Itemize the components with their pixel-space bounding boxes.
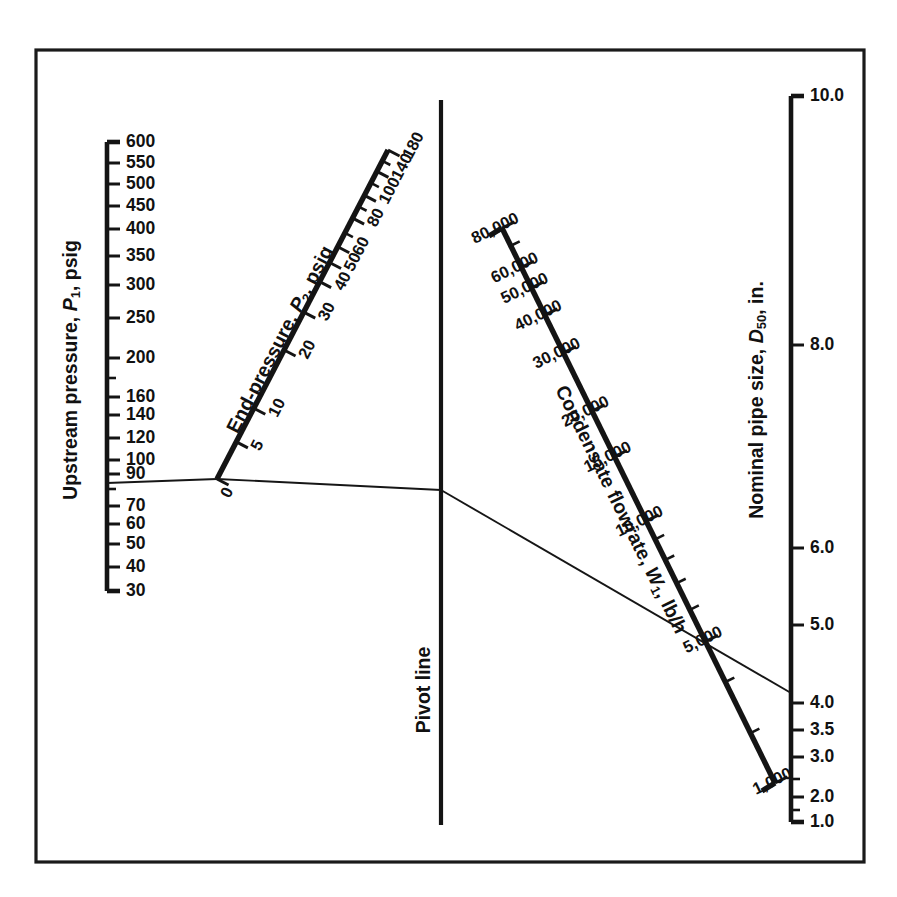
svg-text:Upstream pressure, P1, psig: Upstream pressure, P1, psig <box>59 240 83 500</box>
nominal-pipe-size-tick-label: 4.0 <box>810 692 835 712</box>
upstream-pressure-tick-label: 550 <box>126 152 155 172</box>
upstream-pressure-tick-label: 60 <box>126 513 146 533</box>
end-pressure-tick-label-group: 30 <box>314 299 338 324</box>
condensate-flowrate-axis-title: Condensate flowrate, W1, lb/h <box>549 382 692 638</box>
isopleth-p2-to-pivot <box>217 479 441 490</box>
upstream-pressure-tick-label: 50 <box>126 533 146 553</box>
nominal-pipe-size-tick-label: 8.0 <box>810 334 835 354</box>
end-pressure-ticks <box>217 150 400 485</box>
end-pressure-tick-label-group: 80 <box>363 205 387 230</box>
p1-title-tail: , psig <box>59 240 81 291</box>
upstream-pressure-tick-label: 120 <box>126 427 155 447</box>
p1-title-main: Upstream pressure, <box>59 311 81 500</box>
condensate-flowrate-tick-label-group: 1,000 <box>749 763 794 797</box>
condensate-flowrate-tick-label: 1,000 <box>749 763 794 797</box>
axis-upstream-pressure: 6005505004504003503002502001601401201009… <box>59 131 155 600</box>
d-title-sub: 50 <box>754 315 769 329</box>
upstream-pressure-tick-label: 70 <box>126 495 146 515</box>
upstream-pressure-tick-label: 250 <box>126 307 155 327</box>
axis-nominal-pipe-size: 10.08.06.05.04.03.53.02.01.0 Nominal pip… <box>745 85 844 831</box>
upstream-pressure-tick-labels: 6005505004504003503002502001601401201009… <box>126 131 155 600</box>
end-pressure-tick-label: 0 <box>216 484 236 500</box>
pivot-label-text: Pivot line <box>412 647 434 734</box>
p1-title-sub: 1 <box>68 291 83 298</box>
nominal-pipe-size-tick-label: 10.0 <box>810 85 844 105</box>
svg-text:Condensate flowrate, W1, lb/h: Condensate flowrate, W1, lb/h <box>549 382 692 638</box>
nominal-pipe-size-tick-label: 3.0 <box>810 746 835 766</box>
upstream-pressure-tick-label: 350 <box>126 245 155 265</box>
upstream-pressure-axis-title: Upstream pressure, P1, psig <box>59 240 83 500</box>
upstream-pressure-tick-label: 140 <box>126 404 155 424</box>
end-pressure-tick-label: 10 <box>264 395 288 420</box>
upstream-pressure-tick-label: 400 <box>126 218 155 238</box>
pivot-line-group: Pivot line <box>412 100 441 825</box>
nominal-pipe-size-tick-label: 1.0 <box>810 811 835 831</box>
upstream-pressure-tick-label: 300 <box>126 274 155 294</box>
end-pressure-tick-label: 80 <box>363 205 387 230</box>
svg-text:Nominal pipe size, D50, in.: Nominal pipe size, D50, in. <box>745 281 769 519</box>
upstream-pressure-tick-label: 500 <box>126 173 155 193</box>
end-pressure-tick-label: 5 <box>246 437 266 453</box>
p2-title-tail: , psig <box>294 242 337 297</box>
p2-title-main: End-pressure, <box>222 305 305 436</box>
end-pressure-tick-label-group: 20 <box>294 337 318 362</box>
isopleth-p1-to-p2 <box>107 479 217 483</box>
end-pressure-tick-label: 30 <box>314 299 338 324</box>
upstream-pressure-tick-label: 30 <box>126 580 146 600</box>
nominal-pipe-size-axis-title: Nominal pipe size, D50, in. <box>745 281 769 519</box>
end-pressure-tick-label-group: 10 <box>264 395 288 420</box>
pivot-line-label: Pivot line <box>412 647 434 734</box>
d-title-main: Nominal pipe size, <box>745 343 767 519</box>
condensate-flowrate-tick-label-group: 80,000 <box>468 208 521 246</box>
w-title-tail: , lb/h <box>652 586 692 637</box>
nomograph-canvas: 6005505004504003503002502001601401201009… <box>0 0 897 897</box>
end-pressure-tick-label-group: 5 <box>246 437 266 453</box>
figure-border <box>36 50 864 862</box>
end-pressure-tick-labels: 1801401008060504030201050 <box>216 129 427 501</box>
nomograph-figure: 6005505004504003503002502001601401201009… <box>0 0 897 897</box>
nominal-pipe-size-tick-label: 2.0 <box>810 786 835 806</box>
end-pressure-tick-label-group: 0 <box>216 484 236 500</box>
nominal-pipe-size-tick-label: 6.0 <box>810 537 835 557</box>
nominal-pipe-size-tick-label: 3.5 <box>810 719 835 739</box>
end-pressure-tick-label: 20 <box>294 337 318 362</box>
upstream-pressure-tick-label: 160 <box>126 386 155 406</box>
upstream-pressure-tick-label: 90 <box>126 463 146 483</box>
nominal-pipe-size-tick-labels: 10.08.06.05.04.03.53.02.01.0 <box>810 85 844 831</box>
upstream-pressure-tick-label: 600 <box>126 131 155 151</box>
condensate-flowrate-tick-label: 80,000 <box>468 208 521 246</box>
d-title-var: D <box>745 329 767 343</box>
p1-title-var: P <box>59 297 81 311</box>
upstream-pressure-tick-label: 200 <box>126 347 155 367</box>
nominal-pipe-size-tick-label: 5.0 <box>810 614 835 634</box>
d-title-tail: , in. <box>745 281 767 315</box>
upstream-pressure-tick-label: 450 <box>126 195 155 215</box>
axis-end-pressure: 1801401008060504030201050 End-pressure, … <box>216 129 427 501</box>
isopleth-group <box>107 479 791 693</box>
upstream-pressure-tick-label: 40 <box>126 556 146 576</box>
